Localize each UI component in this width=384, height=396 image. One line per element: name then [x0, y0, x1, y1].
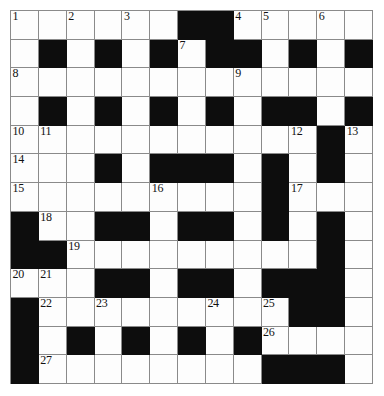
- open-square[interactable]: [95, 183, 123, 212]
- open-square[interactable]: [39, 154, 67, 183]
- open-square[interactable]: [289, 68, 317, 97]
- open-square[interactable]: [289, 11, 317, 40]
- open-square[interactable]: 15: [11, 183, 39, 212]
- open-square[interactable]: [345, 183, 373, 212]
- open-square[interactable]: [67, 269, 95, 298]
- open-square[interactable]: [234, 355, 262, 384]
- open-square[interactable]: [178, 68, 206, 97]
- crossword-grid[interactable]: 1234567891011121314151617181920212223242…: [10, 10, 373, 384]
- open-square[interactable]: 27: [39, 355, 67, 384]
- open-square[interactable]: 10: [11, 126, 39, 155]
- open-square[interactable]: [262, 241, 290, 270]
- open-square[interactable]: [67, 154, 95, 183]
- open-square[interactable]: 12: [289, 126, 317, 155]
- open-square[interactable]: [95, 355, 123, 384]
- open-square[interactable]: [122, 183, 150, 212]
- open-square[interactable]: [122, 241, 150, 270]
- open-square[interactable]: [11, 97, 39, 126]
- open-square[interactable]: [345, 11, 373, 40]
- open-square[interactable]: [178, 298, 206, 327]
- open-square[interactable]: [317, 68, 345, 97]
- open-square[interactable]: [289, 154, 317, 183]
- open-square[interactable]: [234, 97, 262, 126]
- open-square[interactable]: [122, 40, 150, 69]
- open-square[interactable]: [317, 327, 345, 356]
- open-square[interactable]: [234, 241, 262, 270]
- open-square[interactable]: [39, 183, 67, 212]
- open-square[interactable]: [150, 298, 178, 327]
- open-square[interactable]: [150, 126, 178, 155]
- open-square[interactable]: 13: [345, 126, 373, 155]
- open-square[interactable]: 4: [234, 11, 262, 40]
- open-square[interactable]: [289, 327, 317, 356]
- open-square[interactable]: [95, 241, 123, 270]
- open-square[interactable]: [234, 183, 262, 212]
- open-square[interactable]: [206, 126, 234, 155]
- open-square[interactable]: [234, 212, 262, 241]
- open-square[interactable]: [67, 97, 95, 126]
- open-square[interactable]: [345, 68, 373, 97]
- open-square[interactable]: [317, 40, 345, 69]
- open-square[interactable]: 9: [234, 68, 262, 97]
- open-square[interactable]: [345, 269, 373, 298]
- open-square[interactable]: [262, 126, 290, 155]
- open-square[interactable]: [178, 183, 206, 212]
- open-square[interactable]: 18: [39, 212, 67, 241]
- open-square[interactable]: 2: [67, 11, 95, 40]
- open-square[interactable]: [39, 11, 67, 40]
- open-square[interactable]: [150, 11, 178, 40]
- open-square[interactable]: [178, 126, 206, 155]
- open-square[interactable]: [345, 241, 373, 270]
- open-square[interactable]: [317, 183, 345, 212]
- open-square[interactable]: 23: [95, 298, 123, 327]
- open-square[interactable]: [345, 327, 373, 356]
- open-square[interactable]: 25: [262, 298, 290, 327]
- open-square[interactable]: 22: [39, 298, 67, 327]
- open-square[interactable]: 6: [317, 11, 345, 40]
- open-square[interactable]: [95, 68, 123, 97]
- open-square[interactable]: [289, 241, 317, 270]
- open-square[interactable]: [150, 269, 178, 298]
- open-square[interactable]: [39, 68, 67, 97]
- open-square[interactable]: [122, 97, 150, 126]
- open-square[interactable]: [11, 40, 39, 69]
- open-square[interactable]: [39, 327, 67, 356]
- open-square[interactable]: [289, 212, 317, 241]
- open-square[interactable]: 24: [206, 298, 234, 327]
- open-square[interactable]: [345, 355, 373, 384]
- open-square[interactable]: [67, 183, 95, 212]
- open-square[interactable]: [317, 97, 345, 126]
- open-square[interactable]: [122, 298, 150, 327]
- open-square[interactable]: [206, 327, 234, 356]
- open-square[interactable]: 14: [11, 154, 39, 183]
- open-square[interactable]: [122, 355, 150, 384]
- open-square[interactable]: 19: [67, 241, 95, 270]
- open-square[interactable]: [234, 126, 262, 155]
- open-square[interactable]: [262, 40, 290, 69]
- open-square[interactable]: [150, 327, 178, 356]
- open-square[interactable]: [345, 212, 373, 241]
- open-square[interactable]: [178, 241, 206, 270]
- open-square[interactable]: [67, 212, 95, 241]
- open-square[interactable]: [122, 126, 150, 155]
- open-square[interactable]: [178, 355, 206, 384]
- open-square[interactable]: 16: [150, 183, 178, 212]
- open-square[interactable]: [95, 327, 123, 356]
- open-square[interactable]: 17: [289, 183, 317, 212]
- open-square[interactable]: [234, 269, 262, 298]
- open-square[interactable]: [122, 154, 150, 183]
- open-square[interactable]: [178, 97, 206, 126]
- open-square[interactable]: [150, 241, 178, 270]
- open-square[interactable]: [345, 154, 373, 183]
- open-square[interactable]: [150, 68, 178, 97]
- open-square[interactable]: 26: [262, 327, 290, 356]
- open-square[interactable]: [234, 298, 262, 327]
- open-square[interactable]: 8: [11, 68, 39, 97]
- open-square[interactable]: 20: [11, 269, 39, 298]
- open-square[interactable]: [67, 40, 95, 69]
- open-square[interactable]: [150, 355, 178, 384]
- open-square[interactable]: [206, 183, 234, 212]
- open-square[interactable]: [150, 212, 178, 241]
- open-square[interactable]: [262, 68, 290, 97]
- open-square[interactable]: [67, 298, 95, 327]
